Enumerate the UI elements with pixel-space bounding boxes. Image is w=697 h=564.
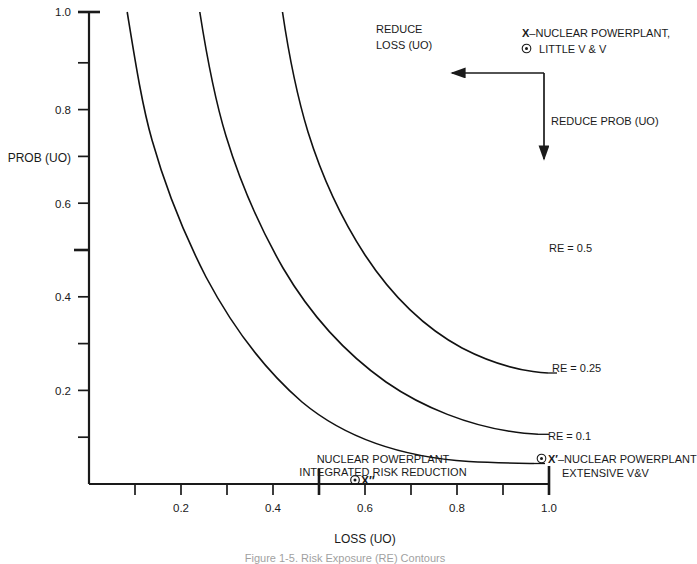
- legend-little-vv-text: LITTLE V & V: [539, 43, 606, 55]
- figure-caption: Figure 1-5. Risk Exposure (RE) Contours: [245, 552, 446, 564]
- curve-re-0-25: [200, 12, 538, 434]
- y-tick-label-0-2: 0.2: [55, 384, 71, 400]
- curve-label-re-0-25: RE = 0.25: [552, 361, 601, 376]
- x-tick-label-0-2: 0.2: [173, 501, 189, 517]
- circled-dot-icon: [521, 43, 532, 58]
- annotation-reduce-prob: REDUCE PROB (UO): [551, 114, 659, 129]
- annotation-integrated-line2: INTEGRATED RISK REDUCTION: [299, 465, 466, 480]
- x-tick-label-0-4: 0.4: [265, 501, 281, 517]
- legend-extensive-text: –NUCLEAR POWERPLANT: [558, 453, 697, 465]
- x-tick-label-0-6: 0.6: [357, 501, 373, 517]
- y-tick-label-0-4: 0.4: [55, 290, 71, 306]
- curve-label-leaders: [534, 373, 557, 464]
- annotation-reduce-loss-line2: LOSS (UO): [376, 38, 432, 53]
- y-tick-label-0-8: 0.8: [55, 103, 71, 119]
- curve-re-0-5: [283, 12, 549, 373]
- x-tick-label-1-0: 1.0: [541, 501, 557, 517]
- x-axis-title: LOSS (UO): [334, 531, 395, 547]
- y-tick-label-0-6: 0.6: [55, 197, 71, 213]
- legend-extensive-vv-line2: EXTENSIVE V&V: [562, 466, 649, 481]
- curve-re-0-1: [127, 12, 534, 464]
- legend-nuclear-powerplant-little-vv: X–NUCLEAR POWERPLANT,: [522, 26, 670, 41]
- annotation-reduce-loss-line1: REDUCE: [376, 22, 422, 37]
- y-axis-title: PROB (UO): [8, 150, 71, 166]
- circled-dot-icon-2: [536, 453, 547, 468]
- legend-x-text: –NUCLEAR POWERPLANT,: [529, 27, 670, 39]
- y-axis-ticks: [74, 12, 100, 437]
- legend-x-prime-symbol: X′: [548, 453, 558, 465]
- curve-label-re-0-5: RE = 0.5: [549, 241, 592, 256]
- legend-little-vv-line: LITTLE V & V: [521, 42, 606, 58]
- y-tick-label-1-0: 1.0: [55, 5, 71, 21]
- curve-label-re-0-1: RE = 0.1: [548, 429, 591, 444]
- data-label-x-double-prime: X″: [361, 473, 375, 489]
- x-tick-label-0-8: 0.8: [449, 501, 465, 517]
